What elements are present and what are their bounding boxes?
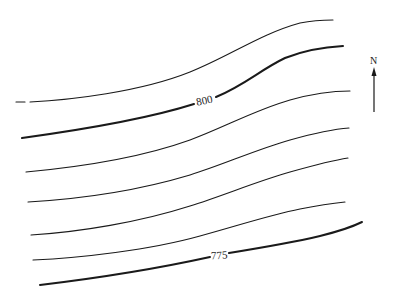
contour-line-4 (28, 128, 349, 202)
contour-line-775: 775 (40, 222, 362, 285)
contour-line-1 (16, 20, 333, 102)
contour-line-800: 800 (22, 46, 343, 138)
contour-label-800: 800 (195, 92, 214, 107)
contour-map: 800 775 N (0, 0, 393, 301)
contour-line-6 (33, 202, 345, 260)
contour-line-3 (26, 91, 350, 172)
contour-line-5 (31, 158, 348, 235)
north-arrow: N (370, 55, 377, 112)
contour-label-775: 775 (211, 248, 229, 261)
north-arrow-icon (372, 67, 377, 76)
north-label: N (370, 55, 377, 66)
